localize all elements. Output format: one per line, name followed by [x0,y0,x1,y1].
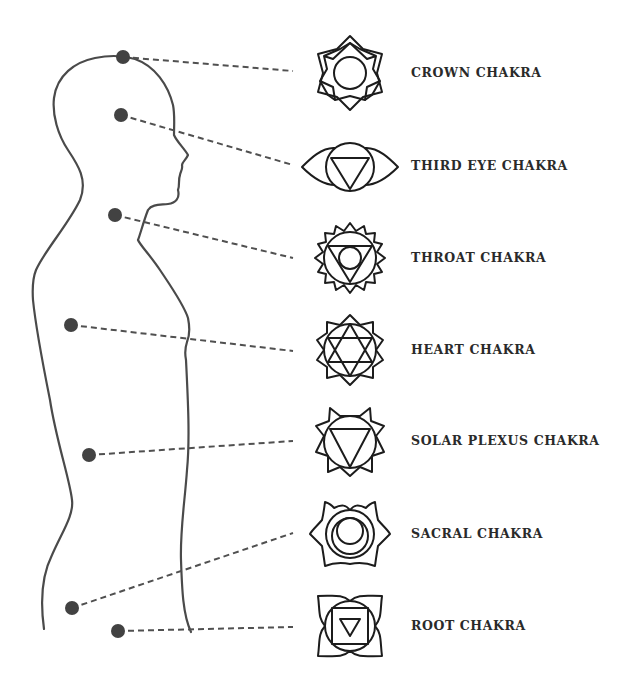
root-chakra-label: ROOT CHAKRA [411,620,526,633]
chakra-points [64,50,130,638]
sacral-chakra-label: SACRAL CHAKRA [411,528,543,541]
sacral-point [65,601,79,615]
chakra-diagram: CROWN CHAKRA THIRD EYE CHAKRA THROAT CHA… [0,0,629,681]
leader-line-third-eye [121,115,293,165]
throat-chakra-icon [315,223,385,293]
third-eye-chakra-icon [302,143,398,191]
leader-line-throat [115,215,293,258]
heart-chakra-label: HEART CHAKRA [411,344,535,357]
leader-line-solar-plexus [89,441,293,455]
root-point [111,624,125,638]
solar-plexus-chakra-label: SOLAR PLEXUS CHAKRA [411,435,600,448]
crown-point [116,50,130,64]
heart-chakra-icon [317,315,383,385]
crown-chakra-label: CROWN CHAKRA [411,67,542,80]
heart-point [64,318,78,332]
human-silhouette [33,56,191,632]
root-chakra-icon [318,596,382,657]
third-eye-chakra-label: THIRD EYE CHAKRA [411,160,568,173]
leader-line-crown [123,57,293,71]
throat-point [108,208,122,222]
leader-line-root [118,627,293,631]
leader-line-heart [71,325,293,351]
third-eye-point [114,108,128,122]
sacral-chakra-icon [310,502,390,566]
throat-chakra-label: THROAT CHAKRA [411,252,546,265]
diagram-canvas [0,0,629,681]
solar-plexus-chakra-icon [316,408,384,476]
crown-chakra-icon [318,36,382,110]
solar-plexus-point [82,448,96,462]
